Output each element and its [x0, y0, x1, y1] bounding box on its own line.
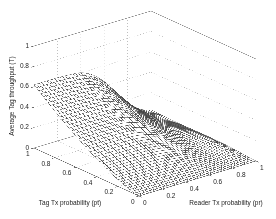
x-tick-label: 0.2: [166, 193, 175, 200]
x-tick-label: 0.8: [237, 172, 246, 179]
x-axis-title: Reader Tx probability (pr): [189, 200, 263, 207]
z-tick-label: 0.8: [20, 63, 29, 70]
y-tick-label: 0: [131, 199, 135, 206]
z-tick-label: 0.6: [20, 83, 29, 90]
x-tick-label: 0.6: [213, 179, 222, 186]
z-tick-label: 0.2: [20, 124, 29, 131]
y-tick-label: 0.6: [62, 170, 71, 177]
y-tick-label: 0.4: [83, 180, 92, 187]
y-tick-label: 0.8: [41, 161, 50, 168]
y-tick-label: 1: [26, 151, 30, 158]
x-tick-label: 0: [143, 200, 147, 207]
y-tick-label: 0.2: [104, 189, 113, 196]
x-tick-label: 0.4: [190, 186, 199, 193]
mesh-surface-canvas: [0, 0, 276, 219]
z-tick-label: 1: [25, 43, 29, 50]
throughput-3d-surface-plot: Reader Tx probability (pr) Tag Tx probab…: [0, 0, 276, 219]
z-axis-title: Average Tag throughput (T): [9, 56, 16, 135]
z-tick-label: 0.4: [20, 104, 29, 111]
y-axis-title: Tag Tx probability (pt): [39, 200, 101, 207]
x-tick-label: 1: [260, 165, 264, 172]
